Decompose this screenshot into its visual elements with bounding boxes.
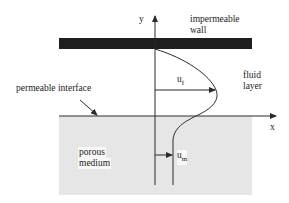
wall-label-line2: wall [190,25,206,36]
interface-label: permeable interface [16,83,91,94]
uf-label: uf [177,74,184,89]
fluid-label-line1: fluid [243,70,261,81]
interface-pointer-arrow [80,100,97,115]
diagram-graphics [0,0,289,203]
porous-label-line1: porous [78,147,106,158]
diagram-canvas: y x impermeable wall fluid layer permeab… [0,0,289,203]
uf-subscript: f [182,79,184,87]
um-subscript: m [182,155,187,163]
x-axis-label: x [270,122,275,133]
wall-label-line1: impermeable [190,14,240,25]
fluid-label-line2: layer [243,81,262,92]
y-axis-label: y [139,14,144,25]
um-label: um [177,150,187,165]
porous-label-line2: medium [78,158,111,169]
